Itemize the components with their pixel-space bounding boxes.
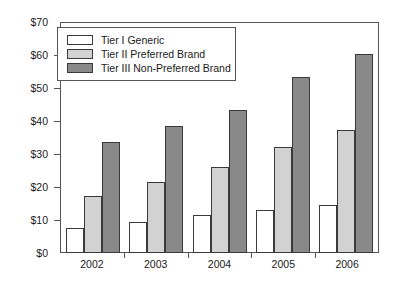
bar-2002-tier1 (66, 228, 84, 253)
legend-item-tier1: Tier I Generic (67, 33, 228, 47)
x-axis-tick-mark (315, 253, 316, 258)
bar-2004-tier2 (211, 167, 229, 253)
x-axis-tick-label: 2003 (124, 258, 188, 280)
x-axis-tick-mark (251, 253, 252, 258)
bar-group-2006 (315, 23, 378, 253)
y-axis-tick-label: $50 (30, 83, 48, 93)
legend: Tier I GenericTier II Preferred BrandTie… (57, 27, 236, 81)
bar-2005-tier1 (256, 210, 274, 253)
legend-swatch-icon (67, 63, 93, 73)
x-axis-tick-label: 2006 (315, 258, 379, 280)
legend-swatch-icon (67, 35, 93, 45)
x-axis: 20022003200420052006 (60, 258, 379, 280)
y-axis-tick-label: $20 (30, 182, 48, 192)
legend-item-label: Tier III Non-Preferred Brand (101, 63, 231, 74)
x-axis-tick-label: 2002 (60, 258, 124, 280)
bar-2005-tier3 (292, 77, 310, 253)
legend-swatch-icon (67, 49, 93, 59)
bar-2005-tier2 (274, 147, 292, 253)
legend-item-label: Tier II Preferred Brand (101, 49, 205, 60)
y-axis-tick-label: $0 (36, 248, 48, 258)
bar-2003-tier3 (165, 126, 183, 253)
bar-2003-tier1 (129, 222, 147, 253)
x-axis-tick-mark (124, 253, 125, 258)
bar-2003-tier2 (147, 182, 165, 253)
y-axis-tick-label: $30 (30, 149, 48, 159)
bar-2002-tier3 (102, 142, 120, 253)
bar-2006-tier2 (337, 130, 355, 253)
x-axis-tick-label: 2005 (251, 258, 315, 280)
x-axis-tick-label: 2004 (188, 258, 252, 280)
y-axis-tick-label: $60 (30, 50, 48, 60)
bar-2004-tier1 (193, 215, 211, 253)
y-axis-tick-label: $70 (30, 17, 48, 27)
bar-2006-tier1 (319, 205, 337, 253)
bar-chart: $70$60$50$40$30$20$10$0 Tier I GenericTi… (0, 0, 397, 289)
bar-2002-tier2 (84, 196, 102, 254)
bar-2006-tier3 (355, 54, 373, 253)
x-axis-tick-mark (188, 253, 189, 258)
bar-2004-tier3 (229, 110, 247, 253)
legend-item-tier2: Tier II Preferred Brand (67, 47, 228, 61)
y-axis: $70$60$50$40$30$20$10$0 (0, 0, 60, 289)
bar-group-2005 (251, 23, 314, 253)
y-axis-tick-label: $10 (30, 215, 48, 225)
legend-item-label: Tier I Generic (101, 35, 164, 46)
legend-item-tier3: Tier III Non-Preferred Brand (67, 61, 228, 75)
y-axis-tick-label: $40 (30, 116, 48, 126)
